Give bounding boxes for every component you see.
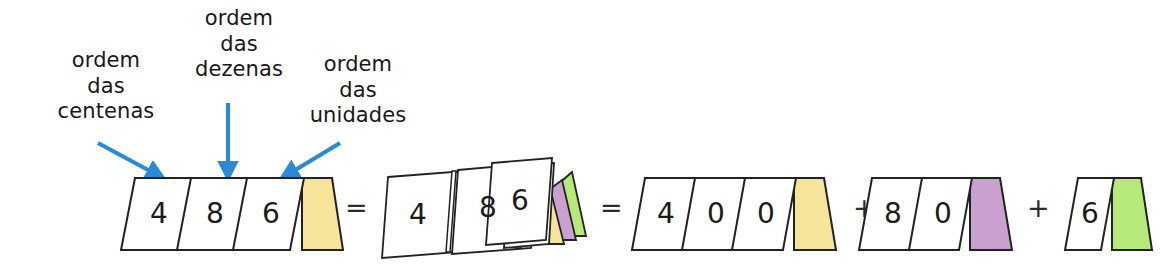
tab-units-green-6 xyxy=(1112,178,1152,250)
diagram-stage: ordem das centenas ordem das dezenas ord… xyxy=(0,0,1168,274)
card-group-6: 6 xyxy=(0,0,1168,274)
digit-units-6: 6 xyxy=(1081,197,1099,230)
